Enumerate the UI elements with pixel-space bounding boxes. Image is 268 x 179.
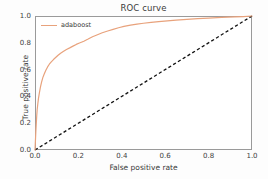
x-tick-label: 0.6 — [160, 152, 171, 160]
roc-curve-figure: ROC curve adaboost 0.00.20.40.60.81.0 0.… — [0, 0, 268, 179]
x-axis-label: False positive rate — [35, 163, 252, 172]
legend: adaboost — [41, 21, 91, 29]
roc-curve-line — [35, 16, 252, 150]
x-tick-label: 0.0 — [29, 152, 40, 160]
y-tick-label: 0.0 — [12, 146, 31, 154]
chance-diagonal-line — [35, 16, 252, 150]
legend-line-swatch — [41, 25, 57, 26]
legend-item-label: adaboost — [61, 21, 91, 29]
y-tick-label: 1.0 — [12, 12, 31, 20]
plot-canvas — [35, 16, 252, 150]
x-tick-label: 0.4 — [116, 152, 127, 160]
x-tick-label: 0.2 — [73, 152, 84, 160]
y-axis-label: True positive rate — [21, 33, 30, 143]
x-tick-label: 0.8 — [203, 152, 214, 160]
x-tick-label: 1.0 — [246, 152, 257, 160]
page-title: ROC curve — [35, 3, 252, 13]
